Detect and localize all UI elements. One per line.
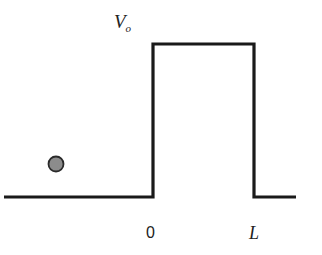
origin-label: 0 — [146, 225, 155, 241]
potential-barrier-diagram: Vo 0 L — [0, 0, 322, 255]
particle-icon — [49, 157, 64, 172]
barrier-height-label: Vo — [114, 12, 131, 31]
barrier-height-subscript: o — [126, 22, 132, 34]
potential-profile-line — [4, 44, 296, 197]
barrier-height-symbol: V — [114, 11, 126, 32]
barrier-width-label: L — [249, 224, 259, 242]
barrier-plot — [0, 0, 322, 255]
